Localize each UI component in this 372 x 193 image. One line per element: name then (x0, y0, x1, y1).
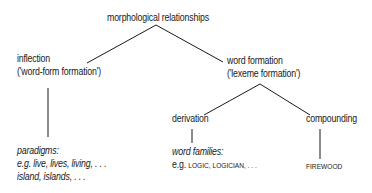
edge-root-word-formation (156, 25, 223, 62)
paradigms-example-1: e.g. live, lives, living, . . . (17, 158, 106, 169)
node-compounding: compounding (306, 113, 357, 124)
compound-example: FIREWOOD (306, 161, 342, 172)
node-word-formation-gloss: ('lexeme formation') (227, 68, 300, 79)
paradigm-live: live, lives, living, . . . (33, 158, 106, 169)
node-word-formation-title: word formation (227, 55, 283, 66)
eg-prefix: e.g. (172, 159, 188, 170)
word-families-example: e.g. LOGIC, LOGICIAN, . . . (172, 159, 257, 171)
word-families-heading: word families: (172, 146, 223, 157)
paradigms-heading: paradigms: (17, 145, 59, 156)
morphology-tree-diagram: morphological relationships inflection (… (0, 0, 372, 193)
node-derivation: derivation (172, 113, 208, 124)
node-root: morphological relationships (107, 12, 209, 23)
edge-wordformation-derivation (204, 84, 260, 115)
edge-wordformation-compounding (260, 84, 310, 115)
eg-prefix: e.g. (17, 158, 33, 169)
edge-root-inflection (87, 25, 156, 63)
node-inflection-gloss: ('word-form formation') (17, 66, 101, 77)
node-inflection-title: inflection (17, 53, 50, 64)
word-family-logic: LOGIC, LOGICIAN, . . . (188, 161, 257, 170)
paradigms-example-2: island, islands, . . . (17, 171, 86, 182)
